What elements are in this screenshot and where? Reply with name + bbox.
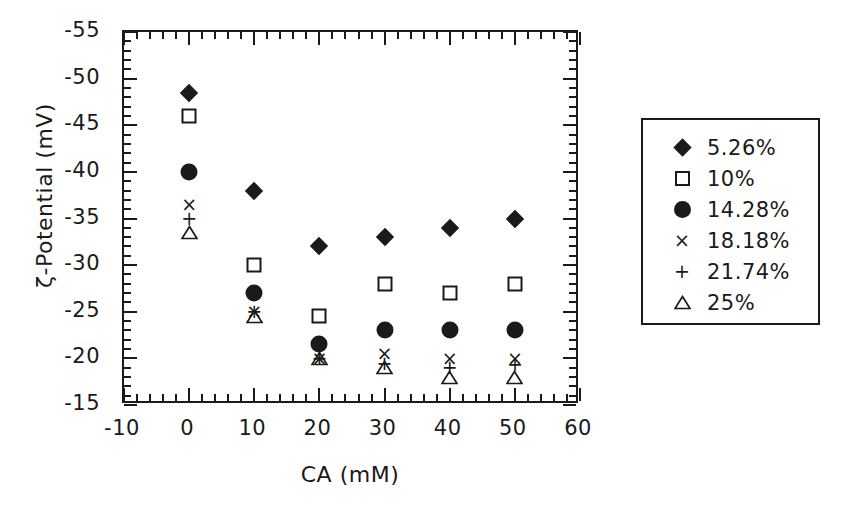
x-axis-tick-labels: -100102030405060	[122, 418, 578, 448]
marker-open-square-icon	[247, 258, 262, 273]
x-axis-tick-top	[488, 32, 490, 39]
x-axis-tick	[318, 388, 320, 401]
x-axis-tick	[240, 394, 242, 401]
y-axis-tick-right	[569, 208, 576, 210]
x-axis-tick	[188, 388, 190, 401]
x-axis-tick	[123, 388, 125, 401]
y-axis-tick	[124, 78, 137, 80]
marker-open-triangle-icon	[441, 368, 459, 386]
y-axis-tick	[124, 134, 131, 136]
y-axis-tick-label: -35	[64, 206, 100, 227]
legend-item: ×18.18%	[643, 225, 818, 256]
x-axis-tick-top	[292, 32, 294, 39]
marker-filled-diamond-icon	[245, 181, 263, 199]
x-axis-tick-top	[123, 32, 125, 45]
x-axis-tick	[566, 394, 568, 401]
x-axis-tick-top	[553, 32, 555, 39]
x-axis-tick-top	[240, 32, 242, 39]
y-axis-tick	[124, 292, 131, 294]
y-axis-tick-right	[569, 395, 576, 397]
y-axis-tick-right	[569, 320, 576, 322]
x-axis-tick-top	[514, 32, 516, 45]
y-axis-tick	[124, 115, 131, 117]
legend-label: 5.26%	[707, 136, 776, 160]
x-axis-tick-top	[214, 32, 216, 39]
x-axis-tick	[553, 394, 555, 401]
x-axis-tick	[279, 394, 281, 401]
x-axis-tick	[305, 394, 307, 401]
y-axis-tick	[124, 385, 131, 387]
marker-filled-diamond-icon	[310, 237, 328, 255]
y-axis-tick	[124, 311, 137, 313]
marker-open-triangle-icon	[673, 294, 691, 312]
marker-plus-icon: +	[673, 263, 691, 281]
y-axis-tick-right	[569, 329, 576, 331]
x-axis-tick-top	[266, 32, 268, 39]
x-axis-tick	[423, 394, 425, 401]
chart-figure: ζ-Potential (mV) -55-50-45-40-35-30-25-2…	[0, 0, 854, 514]
y-axis-tick-right	[569, 236, 576, 238]
x-axis-tick-label: 50	[499, 418, 527, 439]
y-axis-tick	[124, 273, 131, 275]
x-axis-tick	[397, 394, 399, 401]
legend-symbol	[669, 166, 695, 192]
y-axis-tick	[124, 199, 131, 201]
x-axis-tick	[501, 394, 503, 401]
y-axis-tick	[124, 404, 137, 406]
legend-item: 14.28%	[643, 194, 818, 225]
y-axis-tick-right	[563, 31, 576, 33]
x-axis-tick-label: -10	[104, 418, 140, 439]
marker-open-triangle-icon	[245, 307, 263, 325]
marker-filled-circle-icon	[674, 201, 691, 218]
y-axis-tick-label: -40	[64, 159, 100, 180]
y-axis-tick-right	[569, 40, 576, 42]
y-axis-tick-right	[569, 59, 576, 61]
x-axis-tick-top	[501, 32, 503, 39]
x-axis-tick	[410, 394, 412, 401]
y-axis-tick	[124, 218, 137, 220]
y-axis-tick-right	[569, 87, 576, 89]
marker-filled-circle-icon	[181, 163, 198, 180]
x-axis-tick-top	[475, 32, 477, 39]
y-axis-tick	[124, 320, 131, 322]
x-axis-tick	[136, 394, 138, 401]
y-axis-tick	[124, 59, 131, 61]
y-axis-tick-label: -45	[64, 113, 100, 134]
marker-filled-circle-icon	[376, 322, 393, 339]
x-axis-tick	[540, 394, 542, 401]
y-axis-tick-right	[569, 273, 576, 275]
x-axis-tick	[436, 394, 438, 401]
y-axis-tick	[124, 245, 131, 247]
y-axis-tick	[124, 40, 131, 42]
x-axis-tick	[253, 388, 255, 401]
x-axis-tick	[227, 394, 229, 401]
y-axis-tick	[124, 96, 131, 98]
y-axis-tick-right	[569, 339, 576, 341]
y-axis-tick	[124, 376, 131, 378]
y-axis-tick	[124, 329, 131, 331]
y-axis-tick-right	[563, 218, 576, 220]
x-axis-tick-top	[384, 32, 386, 45]
legend-label: 14.28%	[707, 198, 790, 222]
x-axis-tick-top	[449, 32, 451, 45]
x-axis-tick-top	[305, 32, 307, 39]
marker-open-square-icon	[442, 286, 457, 301]
y-axis-tick-right	[569, 227, 576, 229]
y-axis-tick-right	[569, 115, 576, 117]
legend-symbol	[669, 197, 695, 223]
x-axis-tick-top	[253, 32, 255, 45]
marker-open-triangle-icon	[310, 349, 328, 367]
y-axis-tick	[124, 339, 131, 341]
y-axis-tick	[124, 264, 137, 266]
x-axis-tick-top	[358, 32, 360, 39]
y-axis-tick-labels: -55-50-45-40-35-30-25-20-15	[0, 30, 112, 403]
x-axis-tick-top	[527, 32, 529, 39]
y-axis-tick	[124, 357, 137, 359]
y-axis-tick	[124, 301, 131, 303]
marker-open-square-icon	[312, 309, 327, 324]
x-axis-tick-label: 0	[180, 418, 194, 439]
y-axis-tick-right	[569, 134, 576, 136]
x-axis-title: CA (mM)	[122, 462, 578, 487]
y-axis-tick-label: -25	[64, 299, 100, 320]
marker-open-square-icon	[675, 171, 690, 186]
